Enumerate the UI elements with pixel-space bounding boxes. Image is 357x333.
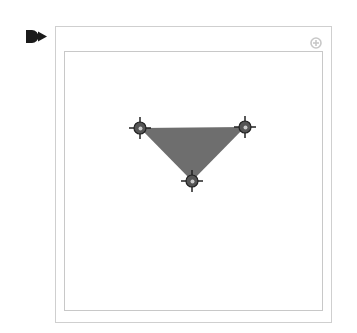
play-marker-icon <box>26 30 48 43</box>
add-circle-icon[interactable] <box>310 37 322 49</box>
